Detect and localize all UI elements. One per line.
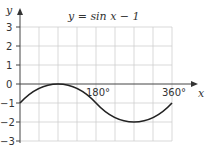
chart: y x y = sin x − 1 3 2 1 0 −1 −2 −3 180° …	[0, 0, 206, 147]
y-tick-0: 0	[6, 79, 12, 90]
y-tick-3: 3	[6, 22, 12, 33]
y-axis-arrow-icon	[17, 8, 23, 15]
axes	[16, 12, 194, 143]
chart-title: y = sin x − 1	[67, 10, 140, 23]
x-tick-180: 180°	[86, 87, 110, 98]
y-tick-m1: −1	[0, 98, 15, 109]
y-axis-label: y	[5, 4, 13, 17]
x-axis-arrow-icon	[191, 81, 198, 87]
y-tick-1: 1	[6, 60, 12, 71]
y-tick-2: 2	[6, 41, 12, 52]
x-tick-360: 360°	[162, 87, 186, 98]
y-tick-m2: −2	[0, 117, 15, 128]
x-axis-label: x	[198, 87, 205, 100]
y-tick-m3: −3	[0, 136, 15, 147]
